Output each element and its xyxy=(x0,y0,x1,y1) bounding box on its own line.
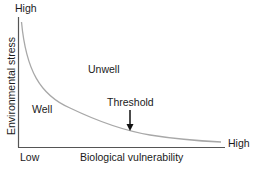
x-axis-title: Biological vulnerability xyxy=(80,151,184,163)
x-axis-high-label: High xyxy=(228,137,250,149)
x-axis-low-label: Low xyxy=(20,151,40,163)
well-region-label: Well xyxy=(32,103,52,115)
unwell-region-label: Unwell xyxy=(88,63,120,75)
y-axis-high-label: High xyxy=(15,2,37,14)
y-axis-title: Environmental stress xyxy=(5,37,17,135)
threshold-curve xyxy=(22,22,222,142)
vulnerability-stress-diagram: High Low High Biological vulnerability E… xyxy=(0,0,256,169)
threshold-label: Threshold xyxy=(107,96,154,108)
